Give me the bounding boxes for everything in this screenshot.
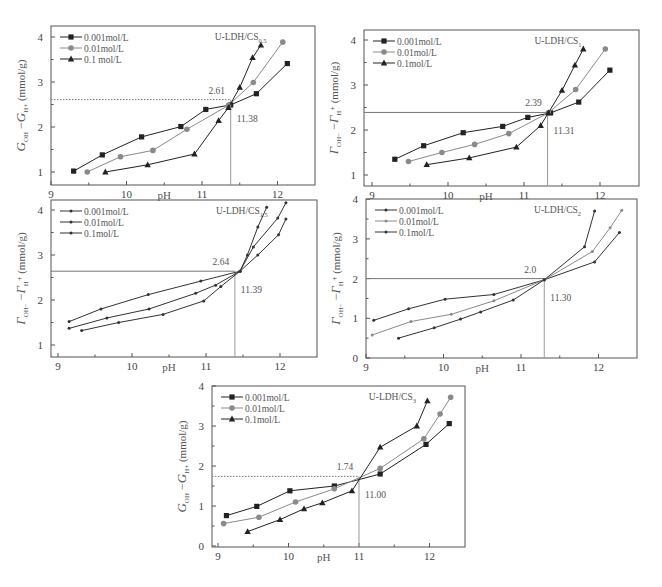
dot-marker — [162, 313, 165, 316]
circle-marker — [573, 87, 579, 93]
circle-marker — [603, 46, 609, 52]
series-0.001mol/L — [392, 68, 612, 162]
y-tick-label: 3 — [353, 233, 359, 245]
intersection-y-value: 2.64 — [213, 257, 230, 267]
intersection-x-value: 11.30 — [550, 293, 571, 303]
dot-marker — [256, 226, 259, 229]
y-axis-label: GOH −GH+ (mmol/g) — [174, 420, 191, 512]
x-tick-label: 10 — [438, 361, 450, 373]
dot-marker — [265, 206, 268, 209]
x-axis-label: pH — [317, 551, 331, 563]
dot-marker — [105, 317, 108, 320]
square-marker — [229, 394, 234, 399]
legend-label: 0.001mol/L — [397, 37, 442, 47]
dot-marker — [543, 278, 546, 281]
dot-marker — [239, 270, 242, 273]
dot-marker — [372, 319, 375, 322]
circle-marker — [381, 49, 387, 55]
panel-title: U-LDH/CS3 — [369, 392, 416, 404]
circle-marker — [221, 521, 227, 527]
dot-marker — [620, 209, 623, 212]
x-tick-label: 12 — [272, 188, 283, 200]
y-tick-label: 2 — [38, 294, 44, 306]
circle-marker — [472, 142, 478, 148]
y-tick-label: 3 — [199, 420, 205, 432]
circle-marker — [280, 39, 286, 45]
x-tick-label: 10 — [283, 550, 295, 562]
legend: 0.001mol/L0.01mol/L0.1mol/L — [373, 37, 442, 69]
series-0.01mol/L — [406, 46, 608, 164]
legend-label: 0.001mol/L — [399, 206, 444, 216]
legend: 0.001mol/L0.01mol/L0.1mol/L — [60, 207, 129, 239]
dot-marker — [147, 293, 150, 296]
y-tick-label: 1 — [199, 500, 205, 512]
y-tick-label: 1 — [38, 339, 44, 351]
legend-label: 0.1mol/L — [84, 229, 119, 239]
square-marker — [203, 107, 208, 112]
dot-marker — [591, 250, 594, 253]
dot-marker — [284, 201, 287, 204]
square-marker — [287, 488, 292, 493]
square-marker — [285, 61, 290, 66]
x-tick-label: 10 — [127, 360, 139, 372]
x-tick-label: 11 — [354, 550, 365, 562]
x-tick-label: 9 — [363, 361, 369, 373]
square-marker — [392, 157, 397, 162]
circle-marker — [506, 131, 512, 137]
circle-marker — [184, 126, 190, 132]
dot-marker — [70, 221, 73, 224]
circle-marker — [68, 45, 74, 51]
legend-label: 0.001mol/L — [84, 207, 129, 217]
dot-marker — [397, 337, 400, 340]
series-0.001mol/L — [372, 231, 621, 322]
x-tick-label: 12 — [275, 360, 286, 372]
dot-marker — [444, 298, 447, 301]
dot-marker — [80, 329, 83, 332]
legend-label: 0.1 mol/L — [84, 55, 122, 65]
y-axis-label: GOH −GH+ (mmol/g) — [13, 59, 30, 151]
series-line — [427, 49, 584, 165]
square-marker — [525, 115, 530, 120]
dot-marker — [512, 299, 515, 302]
y-tick-label: 4 — [351, 34, 357, 46]
legend-label: 0.001mol/L — [84, 33, 129, 43]
dot-marker — [371, 333, 374, 336]
x-tick-label: 12 — [424, 550, 435, 562]
y-axis-label: ΓOH− −ΓH+ (mmol/g) — [326, 61, 343, 155]
y-tick-label: 0 — [199, 540, 205, 552]
x-axis-label: pH — [158, 189, 172, 201]
figure-canvas: 9101112pH1234GOH −GH+ (mmol/g)2.6111.380… — [0, 0, 662, 587]
square-marker — [254, 504, 259, 509]
dot-marker — [385, 231, 388, 234]
circle-marker — [229, 405, 235, 411]
y-tick-label: 1 — [351, 169, 357, 181]
circle-marker — [406, 159, 412, 165]
intersection-x-value: 11.31 — [554, 126, 575, 136]
dot-marker — [385, 209, 388, 212]
square-marker — [607, 68, 612, 73]
chart-panel-1: 9101112pH1234GOH −GH+ (mmol/g)2.6111.380… — [13, 26, 315, 201]
dot-marker — [407, 307, 410, 310]
legend-label: 0.01mol/L — [84, 218, 124, 228]
circle-marker — [293, 499, 299, 505]
dot-marker — [246, 254, 249, 257]
x-tick-label: 9 — [55, 360, 61, 372]
triangle-marker — [237, 84, 243, 90]
circle-marker — [437, 411, 443, 417]
dot-marker — [70, 232, 73, 235]
square-marker — [500, 124, 505, 129]
chart-panel-2: 9101112pH1234ΓOH− −ΓH+ (mmol/g)2.3911.31… — [326, 30, 639, 202]
y-tick-label: 2 — [353, 273, 359, 285]
dot-marker — [409, 320, 412, 323]
panel-title: U-LDH/CS1 — [535, 36, 582, 48]
square-marker — [461, 130, 466, 135]
square-marker — [71, 169, 76, 174]
dot-marker — [492, 293, 495, 296]
square-marker — [378, 471, 383, 476]
dot-marker — [99, 308, 102, 311]
square-marker — [421, 143, 426, 148]
y-axis-label: ΓOH− −ΓH+ (mmol/g) — [328, 232, 345, 326]
intersection-x-value: 11.38 — [237, 114, 258, 124]
dot-marker — [593, 260, 596, 263]
triangle-marker — [414, 423, 420, 429]
